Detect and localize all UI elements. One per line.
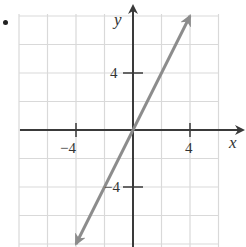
x-tick-label-neg4: −4 xyxy=(60,140,76,156)
y-tick-label-pos4: 4 xyxy=(110,65,118,81)
x-axis-label: x xyxy=(228,133,237,152)
y-tick-label-neg4: −4 xyxy=(104,179,120,195)
coordinate-plane: y x −4 4 4 −4 xyxy=(0,0,246,247)
y-axis-label: y xyxy=(112,10,122,29)
x-tick-label-pos4: 4 xyxy=(185,140,193,156)
